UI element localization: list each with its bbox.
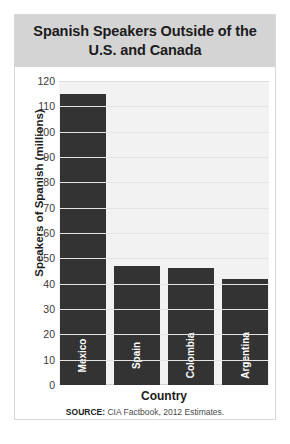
source-text: CIA Factbook, 2012 Estimates. bbox=[107, 407, 224, 417]
gridline bbox=[59, 182, 269, 183]
y-tick-label: 30 bbox=[43, 303, 55, 315]
gridline bbox=[59, 284, 269, 285]
y-axis-ticks: 0102030405060708090100110120 bbox=[19, 81, 55, 385]
gridline bbox=[59, 81, 269, 82]
y-tick-label: 110 bbox=[38, 100, 55, 112]
y-tick-label: 80 bbox=[43, 176, 55, 188]
y-tick-label: 70 bbox=[43, 202, 55, 214]
gridline bbox=[59, 106, 269, 107]
bar-colombia: Colombia bbox=[168, 268, 214, 385]
gridline bbox=[59, 258, 269, 259]
y-tick-label: 100 bbox=[37, 126, 55, 138]
bar-label: Colombia bbox=[186, 333, 197, 379]
source-prefix: SOURCE: bbox=[66, 407, 105, 417]
gridline bbox=[59, 157, 269, 158]
y-tick-label: 60 bbox=[43, 227, 55, 239]
y-tick-label: 120 bbox=[37, 75, 55, 87]
y-tick-label: 10 bbox=[43, 354, 55, 366]
bar-label: Spain bbox=[131, 342, 142, 369]
plot-area: 0102030405060708090100110120 MexicoSpain… bbox=[59, 81, 269, 385]
bar-mexico: Mexico bbox=[60, 94, 106, 385]
source-note: SOURCE: CIA Factbook, 2012 Estimates. bbox=[15, 407, 275, 417]
y-tick-label: 0 bbox=[49, 379, 55, 391]
gridline bbox=[59, 233, 269, 234]
bar-label: Mexico bbox=[78, 339, 89, 373]
gridline bbox=[59, 360, 269, 361]
y-tick-label: 40 bbox=[43, 278, 55, 290]
x-axis-label: Country bbox=[59, 389, 269, 403]
title-band: Spanish Speakers Outside of the U.S. and… bbox=[15, 15, 275, 67]
bar-argentina: Argentina bbox=[222, 279, 268, 385]
gridline bbox=[59, 334, 269, 335]
page-title: Spanish Speakers Outside of the U.S. and… bbox=[23, 22, 267, 59]
gridline bbox=[59, 309, 269, 310]
gridline bbox=[59, 208, 269, 209]
plot-background: MexicoSpainColombiaArgentina bbox=[59, 81, 269, 385]
y-tick-label: 90 bbox=[43, 151, 55, 163]
chart-card: Spanish Speakers Outside of the U.S. and… bbox=[14, 14, 276, 420]
chart-region: Speakers of Spanish (millions) 010203040… bbox=[15, 67, 275, 421]
bar-label: Argentina bbox=[240, 332, 251, 379]
y-tick-label: 20 bbox=[43, 328, 55, 340]
gridline bbox=[59, 132, 269, 133]
y-tick-label: 50 bbox=[43, 252, 55, 264]
